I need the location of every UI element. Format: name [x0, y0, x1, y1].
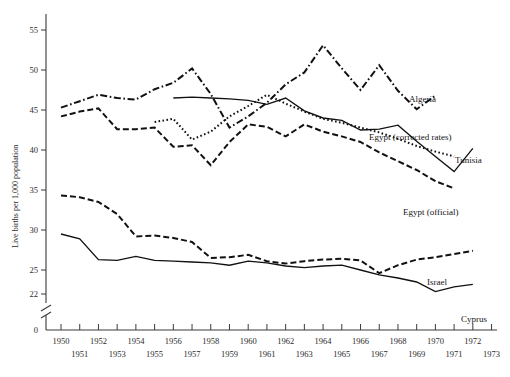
x-tick-label-1964: 1964: [315, 336, 333, 346]
x-tick-label-1966: 1966: [352, 336, 369, 346]
x-tick-label-1962: 1962: [277, 336, 294, 346]
x-tick-label-1970: 1970: [427, 336, 444, 346]
y-tick-25: 25: [30, 265, 39, 275]
x-tick-label-1958: 1958: [202, 336, 219, 346]
x-tick-label-1960: 1960: [240, 336, 257, 346]
series-layer: [61, 45, 473, 291]
x-tick-label-1950: 1950: [53, 336, 70, 346]
series-label-tunisia: Tunisia: [455, 155, 482, 165]
chart-svg: Live births per 1,000 population 55 50 4…: [0, 0, 510, 377]
series-line-egypt-corrected-rates: [155, 95, 455, 157]
series-label-israel: Israel: [427, 277, 447, 287]
x-tick-label-1967: 1967: [371, 349, 388, 359]
x-tick-label-1951: 1951: [71, 349, 88, 359]
y-tick-22: 22: [30, 289, 39, 299]
x-tick-group: 1950195119521953195419551956195719581959…: [53, 324, 501, 359]
x-tick-label-1959: 1959: [221, 349, 238, 359]
y-tick-50: 50: [30, 65, 39, 75]
x-tick-label-1969: 1969: [408, 349, 425, 359]
y-tick-group: 55 50 45 40 35 30 25 22 0: [30, 25, 47, 335]
x-tick-label-1953: 1953: [109, 349, 126, 359]
x-tick-label-1954: 1954: [127, 336, 145, 346]
x-tick-label-1963: 1963: [296, 349, 313, 359]
series-line-cyprus: [61, 234, 473, 292]
x-tick-label-1968: 1968: [389, 336, 406, 346]
y-tick-30: 30: [30, 225, 39, 235]
x-tick-label-1956: 1956: [165, 336, 182, 346]
series-line-algeria: [61, 45, 435, 127]
x-tick-label-1965: 1965: [333, 349, 350, 359]
x-tick-label-1955: 1955: [146, 349, 163, 359]
y-tick-35: 35: [30, 185, 39, 195]
y-tick-45: 45: [30, 105, 39, 115]
line-chart-figure: Live births per 1,000 population 55 50 4…: [0, 0, 510, 377]
series-label-algeria: Algeria: [409, 94, 436, 104]
series-label-cyprus: Cyprus: [461, 314, 488, 324]
x-tick-label-1971: 1971: [446, 349, 463, 359]
y-tick-40: 40: [30, 145, 39, 155]
y-tick-0: 0: [34, 325, 38, 335]
series-label-egypt-corrected: Egypt (corrected rates): [369, 132, 451, 142]
series-line-egypt-official: [61, 108, 454, 188]
x-tick-label-1972: 1972: [464, 336, 481, 346]
x-tick-label-1961: 1961: [258, 349, 275, 359]
y-tick-55: 55: [30, 25, 39, 35]
x-tick-label-1957: 1957: [184, 349, 201, 359]
y-axis-title: Live births per 1,000 population: [11, 145, 20, 248]
x-tick-label-1952: 1952: [90, 336, 107, 346]
x-tick-label-1973: 1973: [483, 349, 500, 359]
series-label-egypt-official: Egypt (official): [403, 207, 459, 217]
